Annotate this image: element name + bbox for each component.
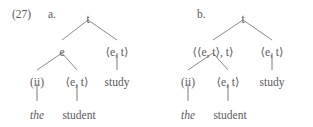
tree-edges-layer bbox=[0, 0, 313, 127]
figure-canvas: (27) a. b. t t e⟨e, t⟩(ii)⟨e, t⟩studythe… bbox=[0, 0, 313, 127]
tree-a-edge-1 bbox=[88, 20, 117, 40]
tree-a-subject-type: e bbox=[59, 47, 64, 59]
tree-edge-group bbox=[37, 20, 272, 101]
tree-b-root-node: t bbox=[241, 14, 244, 26]
example-number: (27) bbox=[12, 9, 31, 21]
tree-a-noun-type: ⟨e, t⟩ bbox=[65, 77, 88, 89]
tree-b-edge-0 bbox=[213, 20, 243, 40]
tree-a-noun-word: student bbox=[62, 110, 95, 122]
tree-a-root-node: t bbox=[86, 14, 89, 26]
tree-b-subject-type: ⟨⟨e, t⟩, t⟩ bbox=[193, 47, 234, 59]
tree-b-determiner-type: (ii) bbox=[181, 77, 195, 89]
tree-a-verb-word: study bbox=[105, 77, 130, 89]
tree-a-letter: a. bbox=[48, 9, 56, 21]
tree-a-edge-2 bbox=[37, 53, 62, 70]
tree-a-determiner-word: the bbox=[30, 110, 44, 122]
tree-a-determiner-type: (ii) bbox=[30, 77, 44, 89]
tree-b-predicate-type: ⟨e, t⟩ bbox=[260, 47, 283, 59]
tree-a-predicate-type: ⟨e, t⟩ bbox=[105, 47, 128, 59]
tree-b-letter: b. bbox=[197, 9, 206, 21]
tree-b-verb-word: study bbox=[260, 77, 285, 89]
tree-b-noun-type: ⟨e, t⟩ bbox=[216, 77, 239, 89]
tree-b-determiner-word: the bbox=[181, 110, 195, 122]
tree-a-edge-0 bbox=[62, 20, 88, 40]
tree-b-edge-1 bbox=[243, 20, 272, 40]
tree-b-noun-word: student bbox=[213, 110, 246, 122]
